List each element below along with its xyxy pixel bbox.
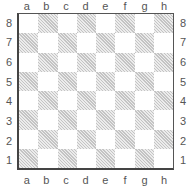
square-d3[interactable] bbox=[77, 110, 96, 129]
rank-label-left: 7 bbox=[3, 36, 15, 48]
file-label-bottom: e bbox=[96, 174, 116, 186]
square-g5[interactable] bbox=[135, 72, 154, 91]
square-c5[interactable] bbox=[58, 72, 77, 91]
square-e8[interactable] bbox=[96, 14, 115, 33]
rank-label-left: 3 bbox=[3, 115, 15, 127]
square-b7[interactable] bbox=[38, 33, 57, 52]
square-g4[interactable] bbox=[135, 91, 154, 110]
square-a8[interactable] bbox=[19, 14, 38, 33]
square-f5[interactable] bbox=[115, 72, 134, 91]
square-h3[interactable] bbox=[154, 110, 173, 129]
file-label-top: f bbox=[115, 0, 135, 12]
square-c2[interactable] bbox=[58, 130, 77, 149]
file-label-bottom: f bbox=[115, 174, 135, 186]
square-b8[interactable] bbox=[38, 14, 57, 33]
square-h5[interactable] bbox=[154, 72, 173, 91]
chess-board bbox=[17, 13, 174, 170]
file-label-bottom: d bbox=[76, 174, 96, 186]
square-e3[interactable] bbox=[96, 110, 115, 129]
file-label-top: b bbox=[37, 0, 57, 12]
rank-label-right: 6 bbox=[177, 56, 189, 68]
square-h7[interactable] bbox=[154, 33, 173, 52]
square-f7[interactable] bbox=[115, 33, 134, 52]
rank-label-right: 5 bbox=[177, 76, 189, 88]
rank-label-right: 2 bbox=[177, 135, 189, 147]
rank-label-left: 2 bbox=[3, 135, 15, 147]
rank-label-right: 8 bbox=[177, 17, 189, 29]
square-f2[interactable] bbox=[115, 130, 134, 149]
file-label-top: h bbox=[154, 0, 174, 12]
square-d5[interactable] bbox=[77, 72, 96, 91]
file-label-top: d bbox=[76, 0, 96, 12]
square-b1[interactable] bbox=[38, 149, 57, 168]
file-label-top: e bbox=[96, 0, 116, 12]
square-f1[interactable] bbox=[115, 149, 134, 168]
square-e5[interactable] bbox=[96, 72, 115, 91]
square-g1[interactable] bbox=[135, 149, 154, 168]
square-a3[interactable] bbox=[19, 110, 38, 129]
file-label-top: c bbox=[56, 0, 76, 12]
square-b5[interactable] bbox=[38, 72, 57, 91]
square-a7[interactable] bbox=[19, 33, 38, 52]
square-h6[interactable] bbox=[154, 53, 173, 72]
square-d1[interactable] bbox=[77, 149, 96, 168]
square-g2[interactable] bbox=[135, 130, 154, 149]
square-c1[interactable] bbox=[58, 149, 77, 168]
rank-label-right: 7 bbox=[177, 36, 189, 48]
square-g7[interactable] bbox=[135, 33, 154, 52]
square-g3[interactable] bbox=[135, 110, 154, 129]
square-a4[interactable] bbox=[19, 91, 38, 110]
square-g8[interactable] bbox=[135, 14, 154, 33]
square-e2[interactable] bbox=[96, 130, 115, 149]
rank-label-right: 3 bbox=[177, 115, 189, 127]
square-c7[interactable] bbox=[58, 33, 77, 52]
square-c6[interactable] bbox=[58, 53, 77, 72]
square-a1[interactable] bbox=[19, 149, 38, 168]
file-label-top: a bbox=[17, 0, 37, 12]
square-f6[interactable] bbox=[115, 53, 134, 72]
square-a2[interactable] bbox=[19, 130, 38, 149]
square-f3[interactable] bbox=[115, 110, 134, 129]
square-c4[interactable] bbox=[58, 91, 77, 110]
square-e4[interactable] bbox=[96, 91, 115, 110]
square-a6[interactable] bbox=[19, 53, 38, 72]
square-h4[interactable] bbox=[154, 91, 173, 110]
square-a5[interactable] bbox=[19, 72, 38, 91]
file-label-bottom: b bbox=[37, 174, 57, 186]
square-d2[interactable] bbox=[77, 130, 96, 149]
rank-label-left: 4 bbox=[3, 95, 15, 107]
file-label-bottom: c bbox=[56, 174, 76, 186]
square-d6[interactable] bbox=[77, 53, 96, 72]
file-label-bottom: g bbox=[135, 174, 155, 186]
square-c3[interactable] bbox=[58, 110, 77, 129]
square-d4[interactable] bbox=[77, 91, 96, 110]
square-c8[interactable] bbox=[58, 14, 77, 33]
square-b4[interactable] bbox=[38, 91, 57, 110]
square-h8[interactable] bbox=[154, 14, 173, 33]
square-d7[interactable] bbox=[77, 33, 96, 52]
file-label-bottom: a bbox=[17, 174, 37, 186]
rank-label-left: 8 bbox=[3, 17, 15, 29]
rank-label-left: 6 bbox=[3, 56, 15, 68]
rank-label-right: 1 bbox=[177, 154, 189, 166]
square-e1[interactable] bbox=[96, 149, 115, 168]
square-d8[interactable] bbox=[77, 14, 96, 33]
square-b2[interactable] bbox=[38, 130, 57, 149]
rank-label-right: 4 bbox=[177, 95, 189, 107]
file-label-bottom: h bbox=[154, 174, 174, 186]
square-e6[interactable] bbox=[96, 53, 115, 72]
square-h1[interactable] bbox=[154, 149, 173, 168]
rank-label-left: 5 bbox=[3, 76, 15, 88]
square-h2[interactable] bbox=[154, 130, 173, 149]
rank-label-left: 1 bbox=[3, 154, 15, 166]
square-f8[interactable] bbox=[115, 14, 134, 33]
file-label-top: g bbox=[135, 0, 155, 12]
square-b3[interactable] bbox=[38, 110, 57, 129]
square-e7[interactable] bbox=[96, 33, 115, 52]
square-g6[interactable] bbox=[135, 53, 154, 72]
square-f4[interactable] bbox=[115, 91, 134, 110]
square-b6[interactable] bbox=[38, 53, 57, 72]
